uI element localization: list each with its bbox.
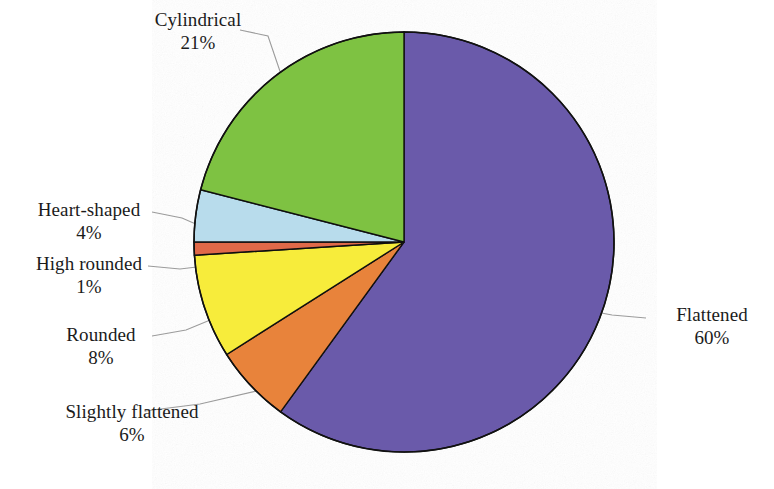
pie-label-flattened: Flattened 60% <box>652 303 772 349</box>
pie-label-flattened-percent: 60% <box>652 326 772 349</box>
pie-label-cylindrical-name: Cylindrical <box>118 8 278 31</box>
pie-label-high-rounded-name: High rounded <box>14 252 164 275</box>
pie-label-rounded: Rounded 8% <box>36 323 166 369</box>
pie-label-slightly-flattened: Slightly flattened 6% <box>32 400 232 446</box>
pie-label-cylindrical: Cylindrical 21% <box>118 8 278 54</box>
pie-slices <box>194 32 614 452</box>
pie-label-rounded-name: Rounded <box>36 323 166 346</box>
pie-label-slightly-flattened-percent: 6% <box>32 423 232 446</box>
pie-label-slightly-flattened-name: Slightly flattened <box>32 400 232 423</box>
pie-label-heart-shaped: Heart-shaped 4% <box>14 198 164 244</box>
pie-label-heart-shaped-name: Heart-shaped <box>14 198 164 221</box>
pie-label-flattened-name: Flattened <box>652 303 772 326</box>
pie-label-high-rounded: High rounded 1% <box>14 252 164 298</box>
pie-label-rounded-percent: 8% <box>36 346 166 369</box>
pie-label-heart-shaped-percent: 4% <box>14 221 164 244</box>
pie-label-high-rounded-percent: 1% <box>14 275 164 298</box>
leader-line-flattened <box>596 312 646 318</box>
pie-chart-figure: Cylindrical 21% Heart-shaped 4% High rou… <box>0 0 774 489</box>
pie-label-cylindrical-percent: 21% <box>118 31 278 54</box>
